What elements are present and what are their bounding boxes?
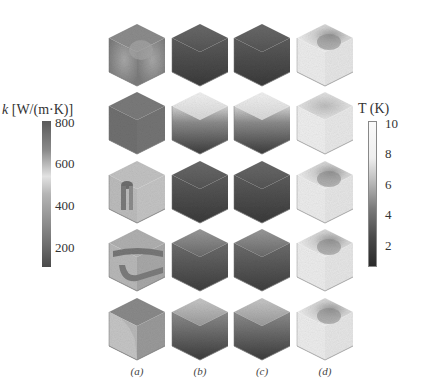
k-tick-800: 800 [55, 116, 75, 129]
cube-row1-col-a [107, 22, 167, 88]
cube-row4-col-b [170, 227, 230, 293]
column-label-c: (c) [232, 365, 292, 377]
cube-row3-col-a [107, 159, 167, 225]
cube-row2-col-d [295, 90, 355, 156]
t-tick-8: 8 [385, 147, 392, 160]
cube-row1-col-b [170, 22, 230, 88]
cube-row1-col-d [295, 22, 355, 88]
t-tick-4: 4 [385, 208, 392, 221]
cube-row5-col-d [295, 296, 355, 362]
column-label-d: (d) [295, 365, 355, 377]
cube-row4-col-a [107, 227, 167, 293]
t-colorbar-label: T (K) [358, 101, 389, 117]
k-colorbar [42, 121, 51, 267]
cube-row3-col-d [295, 159, 355, 225]
t-colorbar [368, 121, 377, 267]
cube-row3-col-b [170, 159, 230, 225]
cube-row5-col-c [232, 296, 292, 362]
cube-row3-col-c [232, 159, 292, 225]
t-tick-2: 2 [385, 239, 392, 252]
k-tick-400: 400 [55, 199, 75, 212]
t-tick-6: 6 [385, 178, 392, 191]
t-tick-10: 10 [385, 117, 398, 130]
cube-row5-col-b [170, 296, 230, 362]
k-tick-200: 200 [55, 241, 75, 254]
cube-row2-col-b [170, 90, 230, 156]
cube-row4-col-c [232, 227, 292, 293]
cube-row4-col-d [295, 227, 355, 293]
column-label-b: (b) [170, 365, 230, 377]
k-tick-600: 600 [55, 157, 75, 170]
cube-row1-col-c [232, 22, 292, 88]
cube-row2-col-c [232, 90, 292, 156]
column-label-a: (a) [107, 365, 167, 377]
cube-row2-col-a [107, 90, 167, 156]
cube-row5-col-a [107, 296, 167, 362]
